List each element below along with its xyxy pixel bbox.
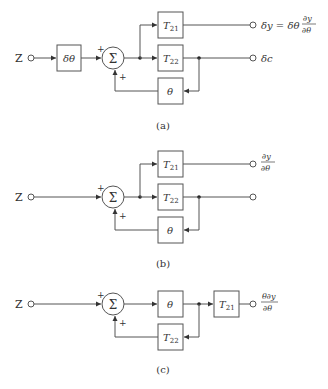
svg-text:δθ: δθ <box>63 53 75 64</box>
svg-text:θ: θ <box>167 86 173 97</box>
diagram-c: Z + Σ + θ T21 θ∂y ∂θ T22 (c) <box>15 290 278 375</box>
svg-text:∂y: ∂y <box>303 14 312 23</box>
output-terminal-dy <box>250 22 256 28</box>
svg-text:∂θ: ∂θ <box>263 304 272 313</box>
svg-text:+: + <box>119 211 127 221</box>
output-terminal-2 <box>250 194 256 200</box>
svg-text:θ: θ <box>167 225 173 236</box>
output-terminal-dc <box>250 55 256 61</box>
svg-text:δy = δθ: δy = δθ <box>261 20 299 31</box>
caption-c: (c) <box>156 364 170 375</box>
diagram-a: Z δθ + Σ + T21 T22 δy = δθ ∂y ∂θ δc θ (a… <box>15 12 316 131</box>
output-terminal <box>250 301 256 307</box>
svg-text:Σ: Σ <box>109 298 117 312</box>
input-terminal <box>28 301 34 307</box>
diagram-b: Z + Σ + T21 T22 ∂y ∂θ θ (b) <box>15 151 275 269</box>
input-label: Z <box>15 52 23 65</box>
svg-text:δc: δc <box>261 53 273 64</box>
svg-text:Z: Z <box>15 191 23 204</box>
svg-text:θ∂y: θ∂y <box>262 292 276 301</box>
caption-a: (a) <box>156 120 170 131</box>
input-terminal <box>28 194 34 200</box>
block-diagrams: Z δθ + Σ + T21 T22 δy = δθ ∂y ∂θ δc θ (a… <box>0 0 328 389</box>
svg-text:Σ: Σ <box>109 191 117 205</box>
svg-text:∂y: ∂y <box>262 152 271 161</box>
caption-b: (b) <box>156 258 170 269</box>
svg-text:+: + <box>119 72 127 82</box>
svg-text:∂θ: ∂θ <box>261 164 270 173</box>
output-terminal-dy <box>250 161 256 167</box>
svg-text:∂θ: ∂θ <box>302 26 311 35</box>
svg-text:+: + <box>119 318 127 328</box>
input-terminal <box>28 55 34 61</box>
svg-text:Σ: Σ <box>109 52 117 66</box>
svg-text:Z: Z <box>15 298 23 311</box>
svg-text:θ: θ <box>167 299 173 310</box>
